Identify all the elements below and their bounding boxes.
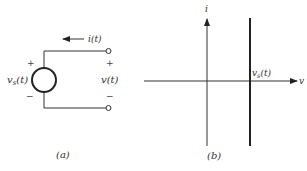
- terminal-minus: −: [106, 91, 114, 101]
- figure-canvas: i(t) + vs(t) − + v(t) − (a) v i vs(t) (b…: [0, 0, 307, 171]
- voltage-source-icon: [32, 68, 56, 92]
- i-axis-label: i: [205, 4, 208, 14]
- source-label: vs(t): [7, 74, 28, 87]
- top-terminal-icon: [106, 49, 111, 54]
- source-voltage-marker: vs(t): [252, 68, 272, 80]
- caption-a: (a): [56, 149, 70, 160]
- source-minus: −: [26, 91, 34, 101]
- source-plus: +: [27, 58, 35, 68]
- terminal-plus: +: [106, 58, 114, 68]
- iv-characteristic-plot: v i vs(t) (b): [144, 4, 304, 161]
- caption-b: (b): [207, 150, 221, 161]
- current-label: i(t): [88, 34, 102, 44]
- circuit-diagram: i(t) + vs(t) − + v(t) − (a): [7, 34, 119, 160]
- v-axis-label: v: [299, 76, 304, 86]
- terminal-voltage-label: v(t): [101, 74, 119, 85]
- bottom-terminal-icon: [106, 106, 111, 111]
